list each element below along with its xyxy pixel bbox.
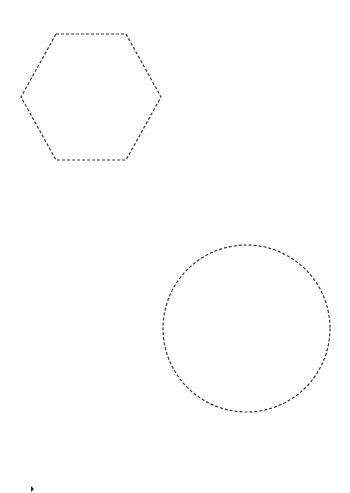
drawing-canvas[interactable] bbox=[0, 0, 350, 493]
canvas-background bbox=[0, 0, 350, 493]
